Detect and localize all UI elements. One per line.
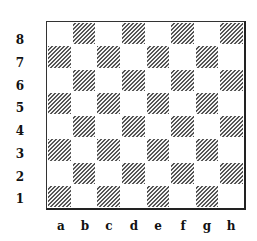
square-h4 xyxy=(220,116,243,137)
square-a8 xyxy=(47,22,72,45)
chessboard xyxy=(46,21,246,210)
square-d1 xyxy=(121,185,146,208)
square-b2 xyxy=(73,163,96,184)
square-b5 xyxy=(72,92,97,115)
square-h7 xyxy=(219,45,244,68)
square-g7 xyxy=(196,46,219,67)
rank-label-6: 6 xyxy=(12,79,28,93)
square-g3 xyxy=(196,139,219,160)
square-d2 xyxy=(122,163,145,184)
square-h3 xyxy=(219,138,244,161)
square-a3 xyxy=(48,139,71,160)
square-f4 xyxy=(171,116,194,137)
square-a6 xyxy=(47,69,72,92)
rank-label-1: 1 xyxy=(12,192,28,206)
square-a5 xyxy=(48,93,71,114)
square-c3 xyxy=(97,139,120,160)
rank-label-3: 3 xyxy=(12,147,28,161)
square-b7 xyxy=(72,45,97,68)
square-g2 xyxy=(195,162,220,185)
square-e5 xyxy=(147,93,170,114)
file-label-g: g xyxy=(197,219,217,233)
square-h6 xyxy=(220,70,243,91)
square-c4 xyxy=(96,115,121,138)
square-g1 xyxy=(196,186,219,207)
square-f8 xyxy=(171,23,194,44)
file-label-c: c xyxy=(99,219,119,233)
square-g6 xyxy=(195,69,220,92)
square-d6 xyxy=(122,70,145,91)
square-b8 xyxy=(73,23,96,44)
file-label-b: b xyxy=(75,219,95,233)
square-d7 xyxy=(121,45,146,68)
file-label-d: d xyxy=(124,219,144,233)
square-e3 xyxy=(147,139,170,160)
file-label-f: f xyxy=(173,219,193,233)
square-d5 xyxy=(121,92,146,115)
square-h5 xyxy=(219,92,244,115)
square-c5 xyxy=(97,93,120,114)
square-c2 xyxy=(96,162,121,185)
rank-label-7: 7 xyxy=(12,56,28,70)
square-e1 xyxy=(147,186,170,207)
square-f2 xyxy=(171,163,194,184)
square-b6 xyxy=(73,70,96,91)
square-f3 xyxy=(170,138,195,161)
file-label-h: h xyxy=(221,219,241,233)
square-f7 xyxy=(170,45,195,68)
square-b4 xyxy=(73,116,96,137)
square-b3 xyxy=(72,138,97,161)
square-h8 xyxy=(220,23,243,44)
square-a7 xyxy=(48,46,71,67)
square-c7 xyxy=(97,46,120,67)
square-a2 xyxy=(47,162,72,185)
square-g4 xyxy=(195,115,220,138)
square-d8 xyxy=(122,23,145,44)
square-f1 xyxy=(170,185,195,208)
square-g5 xyxy=(196,93,219,114)
square-f6 xyxy=(171,70,194,91)
file-label-a: a xyxy=(51,219,71,233)
rank-label-4: 4 xyxy=(12,124,28,138)
rank-label-2: 2 xyxy=(12,170,28,184)
rank-label-8: 8 xyxy=(12,33,28,47)
square-e4 xyxy=(146,115,171,138)
square-e2 xyxy=(146,162,171,185)
square-e7 xyxy=(147,46,170,67)
square-e6 xyxy=(146,69,171,92)
file-label-e: e xyxy=(148,219,168,233)
square-a1 xyxy=(48,186,71,207)
square-h1 xyxy=(219,185,244,208)
square-c6 xyxy=(96,69,121,92)
square-g8 xyxy=(195,22,220,45)
square-d3 xyxy=(121,138,146,161)
square-d4 xyxy=(122,116,145,137)
square-h2 xyxy=(220,163,243,184)
square-c8 xyxy=(96,22,121,45)
square-b1 xyxy=(72,185,97,208)
square-f5 xyxy=(170,92,195,115)
square-c1 xyxy=(97,186,120,207)
square-e8 xyxy=(146,22,171,45)
square-a4 xyxy=(47,115,72,138)
rank-label-5: 5 xyxy=(12,101,28,115)
